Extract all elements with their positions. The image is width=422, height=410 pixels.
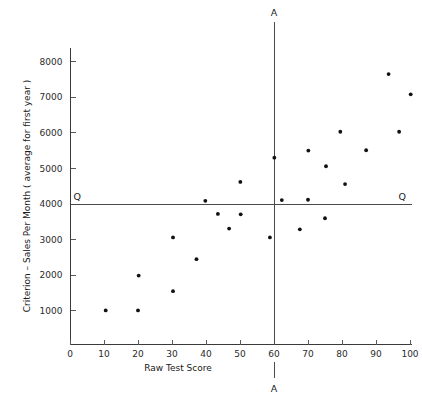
data-point — [203, 199, 207, 203]
y-axis-tick-label: 1000 — [40, 306, 63, 316]
x-axis-tick-label: 70 — [302, 349, 314, 359]
x-axis-tick-label: 100 — [401, 349, 418, 359]
scatter-plot-chart: 10002000300040005000600070008000 0102030… — [0, 0, 422, 410]
y-axis-tick-label: 5000 — [40, 164, 63, 174]
y-axis-tick-label: 3000 — [40, 235, 63, 245]
data-point — [343, 182, 347, 186]
data-points — [104, 72, 413, 312]
data-point — [104, 309, 108, 313]
x-axis-tick-label: 50 — [234, 349, 246, 359]
data-point — [364, 148, 368, 152]
data-point — [397, 130, 401, 134]
cut-score-lines — [71, 22, 413, 378]
y-axis-title: Criterion – Sales Per Month ( average fo… — [22, 80, 32, 312]
y-axis-tick-label: 6000 — [40, 128, 63, 138]
data-point — [324, 164, 328, 168]
y-axis-tick-label: 4000 — [40, 199, 63, 209]
cut-label-left-q: Q — [74, 191, 81, 202]
data-point — [306, 149, 310, 153]
data-point — [387, 72, 391, 76]
data-point — [338, 130, 342, 134]
data-point — [280, 198, 284, 202]
plot-canvas: 10002000300040005000600070008000 0102030… — [0, 0, 422, 410]
data-point — [171, 289, 175, 293]
cut-label-bottom-a: A — [271, 383, 278, 394]
data-point — [239, 212, 243, 216]
x-axis: 0102030405060708090100 — [67, 340, 419, 359]
data-point — [272, 156, 276, 160]
x-axis-tick-label: 40 — [200, 349, 212, 359]
x-axis-tick-label: 30 — [166, 349, 178, 359]
y-axis-tick-label: 7000 — [40, 92, 63, 102]
cut-label-top-a: A — [271, 7, 278, 18]
y-axis: 10002000300040005000600070008000 — [40, 48, 76, 345]
x-axis-tick-label: 10 — [98, 349, 110, 359]
x-axis-tick-label: 90 — [370, 349, 382, 359]
data-point — [323, 216, 327, 220]
data-point — [171, 236, 175, 240]
data-point — [195, 257, 199, 261]
y-axis-tick-label: 8000 — [40, 57, 63, 67]
data-point — [137, 274, 141, 278]
cut-label-right-q: Q — [399, 191, 406, 202]
data-point — [268, 236, 272, 240]
x-axis-tick-label: 60 — [268, 349, 280, 359]
data-point — [409, 92, 413, 96]
data-point — [136, 309, 140, 313]
data-point — [216, 212, 220, 216]
x-axis-tick-label: 80 — [336, 349, 348, 359]
data-point — [227, 227, 231, 231]
chart-labels: AAQQRaw Test ScoreCriterion – Sales Per … — [22, 7, 406, 394]
x-axis-title: Raw Test Score — [144, 363, 212, 373]
x-axis-tick-label: 0 — [67, 349, 73, 359]
data-point — [306, 198, 310, 202]
y-axis-tick-label: 2000 — [40, 270, 63, 280]
data-point — [238, 180, 242, 184]
x-axis-tick-label: 20 — [132, 349, 144, 359]
data-point — [298, 227, 302, 231]
